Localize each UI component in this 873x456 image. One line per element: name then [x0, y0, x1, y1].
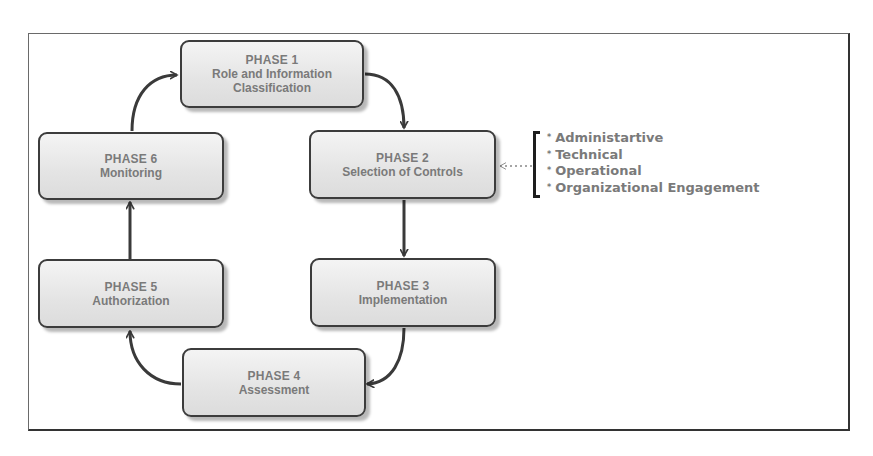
- phase-1-label-line2: Classification: [233, 81, 311, 95]
- phase-4-box: PHASE 4 Assessment: [182, 348, 366, 417]
- arrow-phase1-to-phase2: [365, 74, 404, 128]
- phase-5-title: PHASE 5: [105, 280, 158, 294]
- bullet-icon: *: [547, 166, 551, 175]
- phase-5-label: Authorization: [92, 294, 169, 308]
- phase-3-title: PHASE 3: [377, 279, 430, 293]
- phase-6-box: PHASE 6 Monitoring: [38, 132, 224, 200]
- phase-6-title: PHASE 6: [105, 152, 158, 166]
- phase-2-label: Selection of Controls: [342, 165, 463, 179]
- bullet-icon: *: [547, 183, 551, 192]
- arrow-phase6-to-phase1: [132, 75, 177, 131]
- phase-2-title: PHASE 2: [376, 151, 429, 165]
- phase-5-box: PHASE 5 Authorization: [38, 259, 224, 328]
- controls-bracket: [533, 131, 540, 198]
- controls-list-item: *Organizational Engagement: [547, 180, 760, 197]
- arrow-phase3-to-phase4: [367, 328, 404, 384]
- phase-3-label: Implementation: [359, 293, 448, 307]
- phase-4-title: PHASE 4: [248, 369, 301, 383]
- phase-4-label: Assessment: [239, 383, 310, 397]
- bullet-icon: *: [547, 150, 551, 159]
- flow-connectors: [0, 0, 873, 456]
- phase-6-label: Monitoring: [100, 166, 162, 180]
- bullet-icon: *: [547, 133, 551, 142]
- phase-2-box: PHASE 2 Selection of Controls: [309, 130, 496, 199]
- controls-list-item: *Operational: [547, 163, 760, 180]
- arrow-phase4-to-phase5: [130, 331, 181, 384]
- controls-list-item: *Technical: [547, 147, 760, 164]
- phase-1-label-line1: Role and Information: [212, 67, 332, 81]
- controls-list-item: *Administartive: [547, 130, 760, 147]
- phase-3-box: PHASE 3 Implementation: [310, 258, 496, 327]
- phase-1-title: PHASE 1: [246, 53, 299, 67]
- phase-1-box: PHASE 1 Role and Information Classificat…: [180, 40, 364, 108]
- controls-list: *Administartive *Technical *Operational …: [547, 130, 760, 196]
